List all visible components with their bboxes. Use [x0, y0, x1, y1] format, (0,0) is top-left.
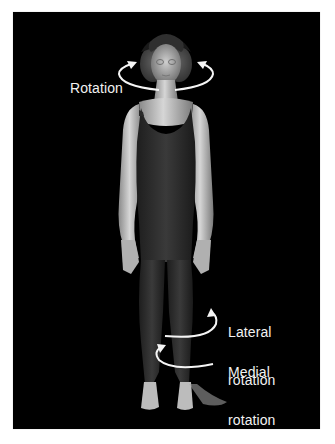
left-leg: [139, 260, 165, 384]
left-hand: [121, 240, 139, 274]
lateral-arrowhead-icon: [207, 308, 216, 317]
torso-bodysuit: [136, 108, 195, 262]
rotation-label: Rotation: [70, 80, 123, 96]
right-hand: [193, 240, 211, 274]
medial-rotation-label-line2: rotation: [228, 412, 276, 428]
right-foot-rotated: [189, 384, 227, 406]
medial-rotation-label: Medial rotation: [228, 332, 276, 429]
shoulders: [139, 98, 193, 126]
left-foot: [141, 382, 159, 410]
figure-panel: Rotation Lateral rotation Medial rotatio…: [13, 12, 320, 429]
medial-rotation-label-line1: Medial: [228, 364, 276, 380]
